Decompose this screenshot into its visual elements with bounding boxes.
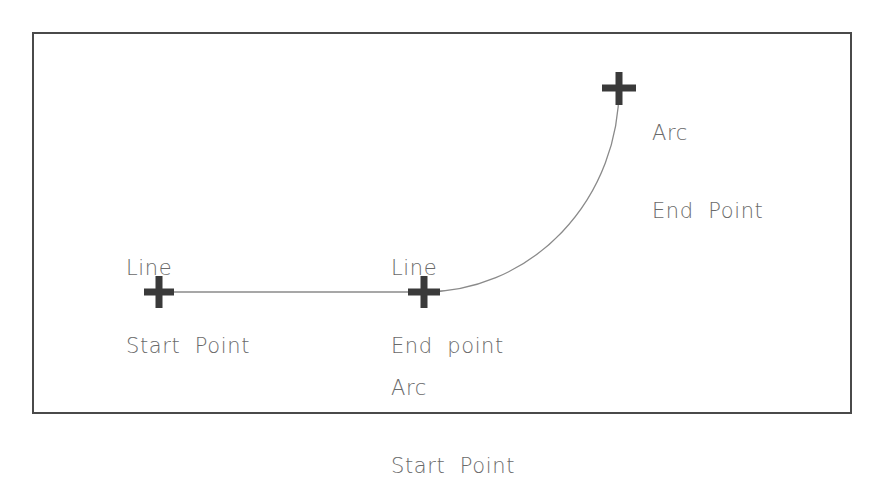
label-line-start-subtitle: Start Point [126, 333, 250, 359]
label-arc-start-subtitle: Start Point [391, 453, 515, 477]
label-line-start-title: Line [126, 255, 250, 281]
label-arc-end: Arc End Point [652, 68, 763, 276]
label-arc-start: Arc Start Point [391, 323, 515, 477]
label-arc-end-subtitle: End Point [652, 198, 763, 224]
label-arc-end-title: Arc [652, 120, 763, 146]
cross-marker-icon [602, 72, 636, 105]
label-line-start: Line Start Point [126, 203, 250, 411]
label-line-end-title: Line [391, 255, 504, 281]
label-arc-start-title: Arc [391, 375, 515, 401]
